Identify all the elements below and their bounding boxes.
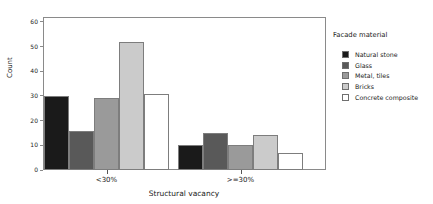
bar (119, 42, 144, 170)
bar (44, 96, 69, 170)
y-tick-label: 30 (30, 91, 38, 100)
legend-swatch-icon (342, 94, 349, 101)
legend-label: Concrete composite (355, 93, 418, 102)
legend-item: Glass (333, 61, 433, 70)
x-axis-title: Structural vacancy (149, 189, 220, 198)
bar (278, 153, 303, 170)
legend-label: Glass (355, 61, 372, 70)
y-tick-label: 0 (34, 165, 38, 174)
legend: Facade material Natural stoneGlassMetal,… (333, 30, 433, 103)
x-tick-label: <30% (96, 175, 117, 185)
y-tick-label: 20 (30, 116, 38, 125)
legend-item: Metal, tiles (333, 71, 433, 80)
y-axis: 0102030405060 (0, 0, 43, 204)
y-tick-mark (40, 71, 43, 72)
x-tick-mark (107, 170, 108, 174)
bar (228, 145, 253, 170)
legend-swatch-icon (342, 83, 349, 90)
chart-figure: 0102030405060 Count Structural vacancy <… (0, 0, 433, 204)
y-tick-label: 10 (30, 140, 38, 149)
legend-title: Facade material (333, 30, 433, 40)
y-tick-label: 40 (30, 66, 38, 75)
legend-item: Bricks (333, 82, 433, 91)
legend-label: Metal, tiles (355, 71, 390, 80)
bar (144, 94, 169, 171)
bar (69, 131, 94, 170)
legend-swatch-icon (342, 51, 349, 58)
x-tick-mark (241, 170, 242, 174)
x-tick-label: >=30% (227, 175, 254, 185)
bar (94, 98, 119, 170)
legend-label: Natural stone (355, 50, 398, 59)
bar (253, 135, 278, 170)
y-tick-label: 50 (30, 42, 38, 51)
y-tick-mark (40, 21, 43, 22)
y-tick-mark (40, 46, 43, 47)
bar (178, 145, 203, 170)
legend-swatch-icon (342, 72, 349, 79)
bar (203, 133, 228, 170)
y-axis-title: Count (6, 57, 14, 78)
legend-items: Natural stoneGlassMetal, tilesBricksConc… (333, 50, 433, 102)
legend-label: Bricks (355, 82, 374, 91)
y-tick-label: 60 (30, 17, 38, 26)
legend-swatch-icon (342, 62, 349, 69)
legend-item: Natural stone (333, 50, 433, 59)
legend-item: Concrete composite (333, 92, 433, 101)
